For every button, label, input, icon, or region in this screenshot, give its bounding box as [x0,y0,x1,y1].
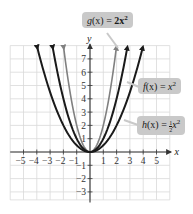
label-f-arg: (x) [146,81,158,92]
y-axis-label: y [86,33,92,44]
x-tick-label: −3 [42,156,52,166]
label-h: h(x) = 12x2 [137,116,185,135]
label-g: g(x) = 2x2 [82,12,133,28]
y-tick-label: 3 [81,108,86,118]
label-g-arg: (x) [92,15,104,26]
label-f-exp: 2 [173,80,177,88]
label-g-exp: 2 [124,14,128,22]
x-tick-label: 3 [128,156,133,166]
x-tick-label: −4 [29,156,39,166]
y-tick-label: 6 [81,68,86,78]
x-tick-label: 1 [101,156,106,166]
label-g-eq: = [104,15,115,26]
y-tick-label: −3 [76,187,86,197]
y-tick-label: 7 [81,54,86,64]
label-f-eq: = [157,81,168,92]
x-tick-label: 2 [114,156,119,166]
x-tick-label: −5 [15,156,25,166]
y-tick-label: 2 [81,121,86,131]
y-tick-label: −2 [76,174,86,184]
x-tick-label: 5 [154,156,159,166]
y-tick-label: 4 [81,94,86,104]
label-g-rhs: 2x [114,15,124,26]
label-h-eq: = [159,119,170,130]
parabola-chart: xy −5−4−3−2−112345−3−2−11234567 [0,0,193,214]
label-h-exp: 2 [177,118,181,126]
x-tick-label: 4 [141,156,146,166]
x-axis-label: x [173,146,179,157]
label-f: f(x) = x2 [138,78,181,94]
label-h-arg: (x) [147,119,159,130]
x-tick-label: −2 [55,156,65,166]
y-tick-label: 5 [81,81,86,91]
y-tick-label: −1 [76,161,86,171]
